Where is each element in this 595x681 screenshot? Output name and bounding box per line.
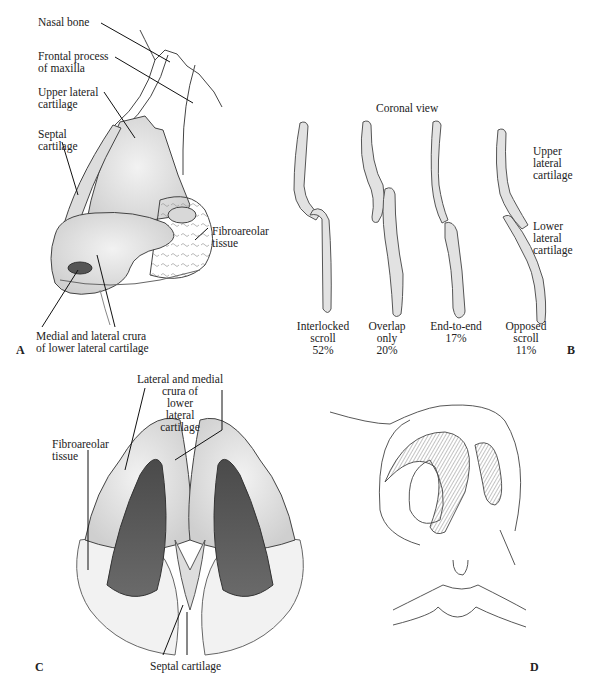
type-overlap-percent: 20% xyxy=(365,344,409,356)
type-interlocked-name: Interlocked scroll xyxy=(292,320,354,344)
label-septal-cartilage-c: Septal cartilage xyxy=(150,660,221,672)
panel-d-drawing xyxy=(330,405,526,627)
type-end-to-end-name: End-to-end xyxy=(424,320,488,332)
label-frontal-process: Frontal process of maxilla xyxy=(38,50,109,74)
label-lower-lateral-cartilage-b: Lower lateral cartilage xyxy=(533,220,573,256)
label-fibroareolar-tissue-c: Fibroareolar tissue xyxy=(52,438,109,462)
label-upper-lateral-cartilage: Upper lateral cartilage xyxy=(38,86,98,110)
label-lateral-medial-crura: Lateral and medial crura of lower latera… xyxy=(130,373,230,433)
type-overlap-name: Overlap only xyxy=(365,320,409,344)
panel-letter-c: C xyxy=(35,660,44,675)
panel-letter-b: B xyxy=(567,343,575,358)
type-interlocked-percent: 52% xyxy=(292,344,354,356)
type-opposed-percent: 11% xyxy=(500,344,552,356)
label-nasal-bone: Nasal bone xyxy=(38,16,89,28)
panel-letter-d: D xyxy=(530,660,539,675)
panel-b-drawing xyxy=(294,121,546,324)
label-fibroareolar-tissue: Fibroareolar tissue xyxy=(212,225,269,249)
label-medial-lateral-crura: Medial and lateral crura of lower latera… xyxy=(36,330,149,354)
coronal-view-title: Coronal view xyxy=(376,102,438,114)
type-opposed-name: Opposed scroll xyxy=(500,320,552,344)
label-septal-cartilage: Septal cartilage xyxy=(38,128,78,152)
panel-letter-a: A xyxy=(16,343,25,358)
label-upper-lateral-cartilage-b: Upper lateral cartilage xyxy=(533,145,573,181)
type-end-to-end-percent: 17% xyxy=(424,332,488,344)
